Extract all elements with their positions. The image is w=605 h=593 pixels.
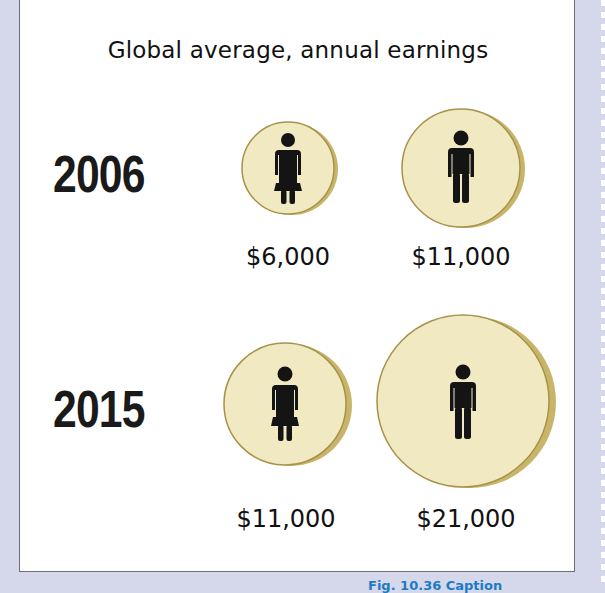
man-icon (375, 312, 559, 492)
amount-2015-men: $21,000 (376, 505, 556, 533)
page-edge-stripe (601, 0, 605, 588)
year-label-2006: 2006 (53, 144, 145, 204)
coin-2006-men (400, 107, 528, 231)
amount-2006-women: $6,000 (198, 243, 378, 271)
coin-2015-men (375, 312, 559, 492)
woman-icon (222, 340, 356, 470)
coin-2015-women (222, 340, 356, 470)
coin-2006-women (240, 120, 340, 218)
amount-2015-women: $11,000 (196, 505, 376, 533)
figure-caption: Fig. 10.36 Caption (368, 578, 502, 593)
infographic-panel: Global average, annual earnings 2006 $6,… (19, 0, 575, 572)
woman-icon (240, 120, 340, 218)
man-icon (400, 107, 528, 231)
amount-2006-men: $11,000 (371, 243, 551, 271)
chart-title: Global average, annual earnings (20, 37, 576, 63)
year-label-2015: 2015 (53, 379, 145, 439)
